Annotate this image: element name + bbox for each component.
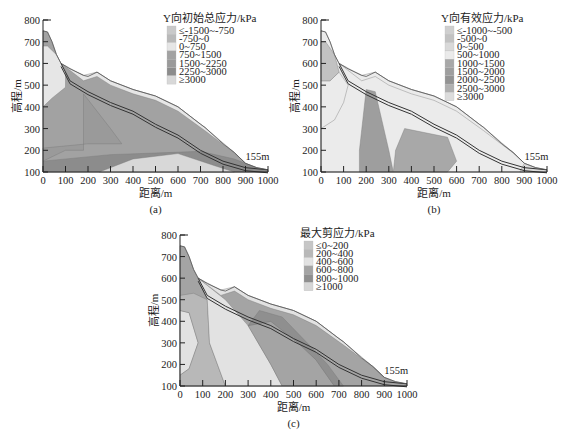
legend-swatch — [445, 84, 454, 92]
panel-caption: (c) — [287, 417, 300, 430]
legend-swatch — [167, 76, 176, 84]
x-tick-label: 500 — [426, 175, 442, 186]
elevation-annotation: 155m — [246, 151, 270, 162]
y-tick-label: 200 — [161, 359, 177, 370]
x-tick-label: 600 — [308, 389, 324, 400]
x-tick-label: 800 — [215, 175, 231, 186]
x-tick-label: 600 — [449, 175, 465, 186]
y-tick-label: 100 — [161, 381, 177, 392]
legend-label: ≥3000 — [179, 74, 206, 85]
legend-swatch — [445, 43, 454, 51]
legend-title: Y向初始总应力/kPa — [163, 11, 257, 24]
legend-swatch — [304, 274, 313, 282]
legend-swatch — [167, 51, 176, 59]
x-tick-label: 700 — [331, 389, 347, 400]
y-tick-label: 700 — [24, 37, 40, 48]
y-tick-label: 300 — [302, 124, 318, 135]
x-tick-label: 100 — [336, 175, 352, 186]
legend-swatch — [445, 76, 454, 84]
x-tick-label: 0 — [40, 175, 45, 186]
y-tick-label: 300 — [161, 338, 177, 349]
elevation-annotation: 155m — [524, 151, 548, 162]
y-tick-label: 600 — [24, 58, 40, 69]
x-tick-label: 500 — [286, 389, 302, 400]
legend-swatch — [304, 258, 313, 266]
y-tick-label: 300 — [24, 124, 40, 135]
legend-swatch — [304, 283, 313, 291]
legend-title: Y向有效应力/kPa — [441, 11, 524, 24]
x-tick-label: 700 — [193, 175, 209, 186]
x-tick-label: 0 — [177, 389, 182, 400]
x-tick-label: 700 — [471, 175, 487, 186]
x-tick-label: 900 — [376, 389, 392, 400]
legend-swatch — [304, 249, 313, 257]
y-tick-label: 600 — [161, 273, 177, 284]
x-tick-label: 200 — [218, 389, 234, 400]
x-tick-label: 800 — [494, 175, 510, 186]
y-axis-label: 高程/m — [147, 293, 160, 327]
x-tick-label: 900 — [238, 175, 254, 186]
x-tick-label: 1000 — [397, 389, 418, 400]
legend-swatch — [445, 51, 454, 59]
legend-swatch — [304, 266, 313, 274]
x-tick-label: 600 — [170, 175, 186, 186]
y-tick-label: 600 — [302, 58, 318, 69]
legend-swatch — [304, 241, 313, 249]
x-tick-label: 500 — [148, 175, 164, 186]
x-tick-label: 100 — [195, 389, 211, 400]
y-tick-label: 800 — [302, 15, 318, 26]
y-tick-label: 400 — [302, 102, 318, 113]
y-tick-label: 500 — [161, 295, 177, 306]
x-tick-label: 0 — [318, 175, 323, 186]
x-tick-label: 200 — [358, 175, 374, 186]
y-tick-label: 400 — [24, 102, 40, 113]
y-tick-label: 400 — [161, 316, 177, 327]
legend-swatch — [445, 68, 454, 76]
legend-swatch — [445, 59, 454, 67]
y-tick-label: 200 — [24, 145, 40, 156]
y-tick-label: 100 — [302, 167, 318, 178]
x-axis-label: 距离/m — [417, 186, 451, 199]
y-tick-label: 700 — [161, 252, 177, 263]
y-tick-label: 100 — [24, 167, 40, 178]
y-tick-label: 800 — [24, 15, 40, 26]
y-tick-label: 700 — [302, 37, 318, 48]
legend-swatch — [445, 26, 454, 34]
x-tick-label: 1000 — [258, 175, 279, 186]
y-tick-label: 800 — [161, 230, 177, 241]
x-tick-label: 300 — [381, 175, 397, 186]
y-axis-label: 高程/m — [288, 79, 301, 113]
legend-swatch — [445, 34, 454, 42]
x-tick-label: 200 — [80, 175, 96, 186]
slope-body — [43, 31, 268, 172]
y-tick-label: 500 — [302, 80, 318, 91]
x-tick-label: 300 — [103, 175, 119, 186]
panel-caption: (a) — [149, 203, 162, 216]
legend-label: ≥3000 — [457, 91, 484, 102]
x-tick-label: 900 — [517, 175, 533, 186]
panel-b: 1002003004005006007008000100200300400500… — [288, 11, 558, 216]
legend-title: 最大剪应力/kPa — [300, 226, 375, 239]
legend-swatch — [167, 68, 176, 76]
x-axis-label: 距离/m — [139, 186, 173, 199]
x-tick-label: 400 — [404, 175, 420, 186]
x-tick-label: 1000 — [537, 175, 558, 186]
legend-label: ≥1000 — [316, 281, 343, 292]
x-tick-label: 100 — [58, 175, 74, 186]
y-axis-label: 高程/m — [10, 79, 23, 113]
x-tick-label: 400 — [263, 389, 279, 400]
x-tick-label: 800 — [354, 389, 370, 400]
panel-c: 1002003004005006007008000100200300400500… — [147, 226, 418, 430]
elevation-annotation: 155m — [384, 365, 408, 376]
figure-canvas: 1002003004005006007008000100200300400500… — [0, 0, 569, 442]
legend-swatch — [167, 26, 176, 34]
x-axis-label: 距离/m — [277, 400, 311, 413]
legend-swatch — [167, 43, 176, 51]
legend-swatch — [445, 92, 454, 100]
y-tick-label: 500 — [24, 80, 40, 91]
x-tick-label: 400 — [125, 175, 141, 186]
legend-swatch — [167, 34, 176, 42]
panel-a: 1002003004005006007008000100200300400500… — [10, 11, 279, 216]
x-tick-label: 300 — [240, 389, 256, 400]
panel-caption: (b) — [428, 203, 441, 216]
